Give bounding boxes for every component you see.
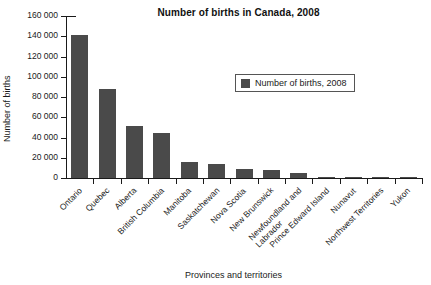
x-axis-tick xyxy=(422,179,423,184)
bar xyxy=(263,170,280,178)
y-axis-tick-label: 0 xyxy=(2,172,58,182)
x-axis-tick xyxy=(93,179,94,184)
bar xyxy=(400,177,417,178)
x-axis-title: Provinces and territories xyxy=(0,270,431,280)
y-axis-tick-label: 40 000 xyxy=(2,132,58,142)
bar xyxy=(181,162,198,178)
y-axis-tick-label: 160 000 xyxy=(2,10,58,20)
x-axis-category-label: Quebec xyxy=(84,186,112,214)
y-axis-tick-label: 20 000 xyxy=(2,152,58,162)
bar xyxy=(126,126,143,178)
bars-layer xyxy=(66,16,422,178)
x-axis-tick xyxy=(367,179,368,184)
x-axis-line xyxy=(66,178,423,179)
bar xyxy=(71,35,88,178)
bar xyxy=(153,133,170,178)
x-axis-tick xyxy=(285,179,286,184)
y-axis-tick xyxy=(61,178,66,179)
bar xyxy=(345,177,362,178)
legend-label: Number of births, 2008 xyxy=(255,78,347,88)
bar xyxy=(208,164,225,178)
x-axis-tick xyxy=(203,179,204,184)
bar xyxy=(318,177,335,178)
y-axis-tick-label: 80 000 xyxy=(2,91,58,101)
x-axis-tick xyxy=(312,179,313,184)
y-axis-tick-label: 140 000 xyxy=(2,30,58,40)
x-axis-tick xyxy=(148,179,149,184)
bar xyxy=(372,177,389,178)
x-axis-tick xyxy=(258,179,259,184)
legend-swatch-icon xyxy=(241,79,250,88)
bar xyxy=(290,173,307,178)
bar-chart: Number of births in Canada, 2008 Number … xyxy=(0,0,431,285)
y-axis-tick-label: 60 000 xyxy=(2,111,58,121)
x-axis-category-label: Yukon xyxy=(389,186,412,209)
y-axis-tick-label: 120 000 xyxy=(2,51,58,61)
bar xyxy=(236,169,253,178)
x-axis-tick xyxy=(121,179,122,184)
x-axis-tick xyxy=(340,179,341,184)
bar xyxy=(99,89,116,178)
legend: Number of births, 2008 xyxy=(235,74,355,92)
y-axis-tick-label: 100 000 xyxy=(2,71,58,81)
x-axis-tick xyxy=(230,179,231,184)
x-axis-tick xyxy=(395,179,396,184)
x-axis-category-label: Ontario xyxy=(58,186,84,212)
x-axis-tick xyxy=(176,179,177,184)
